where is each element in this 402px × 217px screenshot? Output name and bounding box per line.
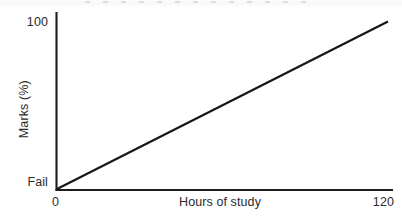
- x-axis-tick-label-120: 120: [348, 196, 394, 209]
- y-axis-tick-label-100: 100: [0, 16, 48, 29]
- chart-figure: 100 Fail Marks (%) 0 120 Hours of study: [0, 0, 402, 217]
- y-axis-title: Marks (%): [18, 67, 31, 151]
- plot-area: [0, 0, 402, 217]
- x-axis-title: Hours of study: [140, 196, 300, 209]
- data-line-series-1: [57, 22, 388, 190]
- y-axis-tick-label-fail: Fail: [0, 176, 48, 189]
- x-axis-tick-label-0: 0: [52, 196, 59, 209]
